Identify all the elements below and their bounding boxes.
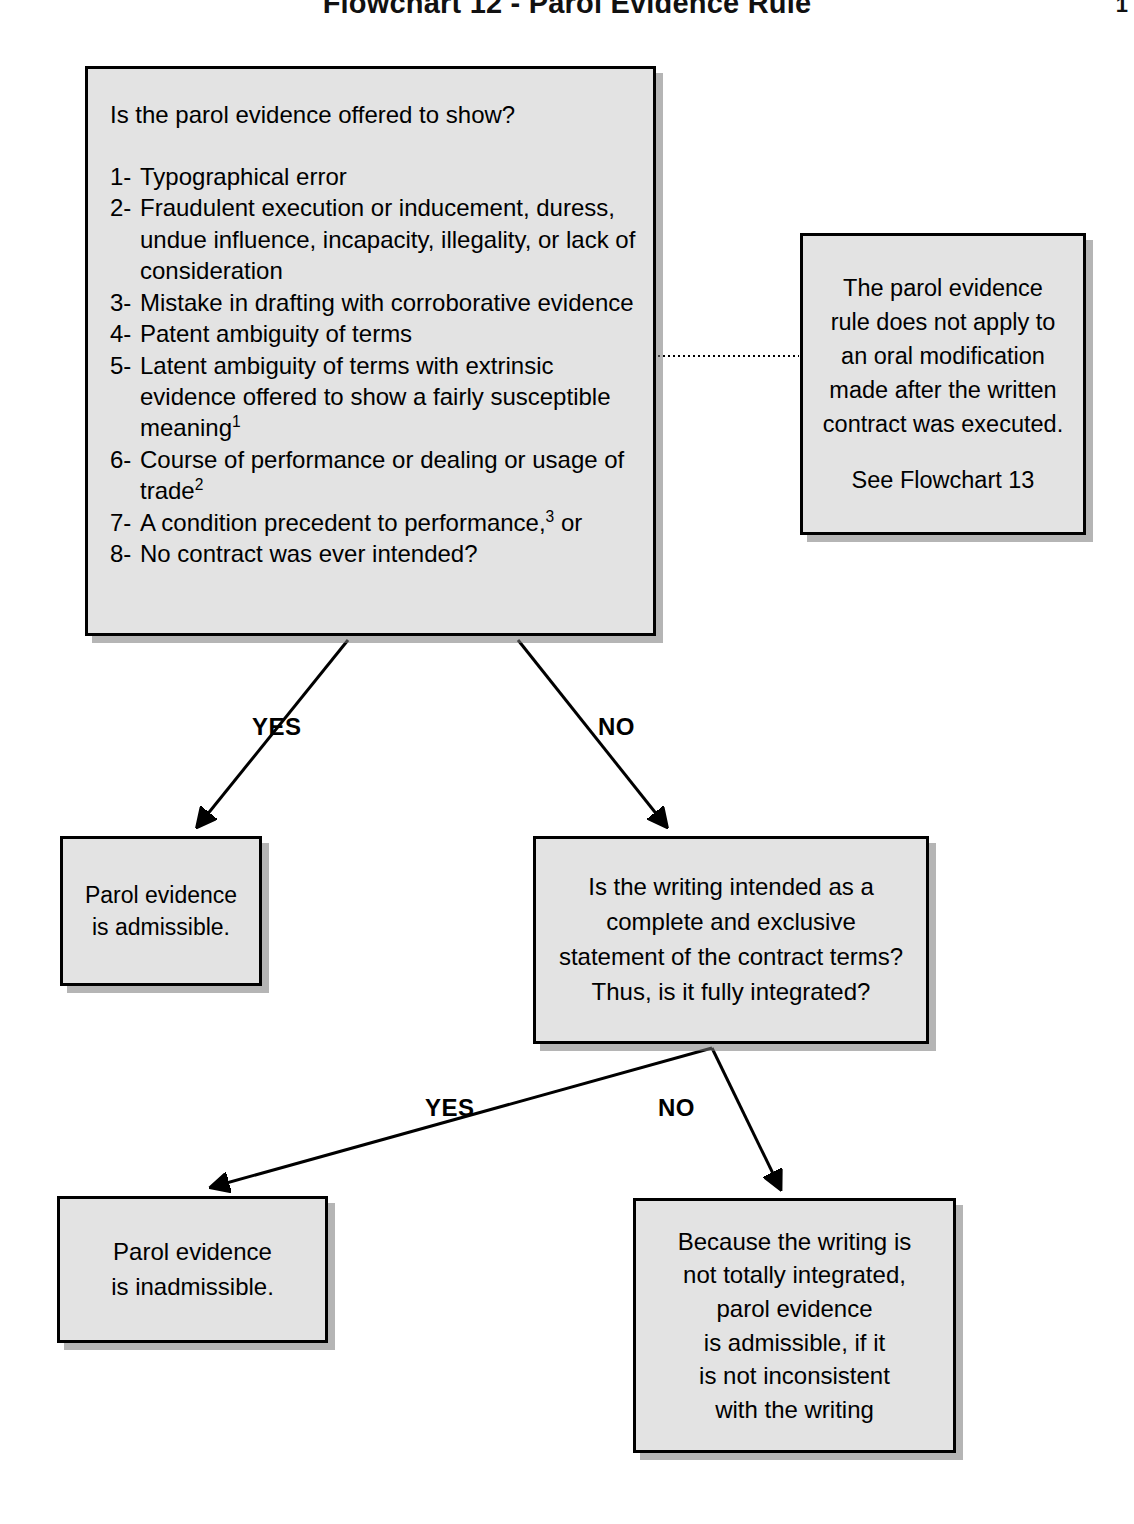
- list-item: 6- Course of performance or dealing or u…: [110, 444, 653, 507]
- footnote-marker: 3: [546, 508, 555, 525]
- list-item: 1- Typographical error: [110, 161, 653, 192]
- list-item-number: 7-: [110, 507, 140, 538]
- outcome-box-parol-evidence-admissible[interactable]: Parol evidence is admissible.: [60, 836, 262, 986]
- list-item-text: Typographical error: [140, 161, 653, 192]
- page-title: Flowchart 12 - Parol Evidence Rule: [0, 0, 1134, 20]
- list-item-text: Fraudulent execution or inducement, dure…: [140, 192, 653, 286]
- list-item: 7- A condition precedent to performance,…: [110, 507, 653, 538]
- outcome-line: is admissible.: [92, 911, 230, 943]
- outcome-line: with the writing: [715, 1393, 874, 1427]
- list-item: 3- Mistake in drafting with corroborativ…: [110, 287, 653, 318]
- list-item-number: 5-: [110, 350, 140, 381]
- outcome-box-not-totally-integrated[interactable]: Because the writing is not totally integ…: [633, 1198, 956, 1453]
- list-item-number: 6-: [110, 444, 140, 475]
- list-item-text: Latent ambiguity of terms with extrinsic…: [140, 352, 611, 442]
- list-item-number: 2-: [110, 192, 140, 223]
- edge-label-yes-second: YES: [425, 1094, 475, 1122]
- outcome-line: Parol evidence: [113, 1235, 272, 1269]
- outcome-line: parol evidence: [716, 1292, 872, 1326]
- list-item: 2- Fraudulent execution or inducement, d…: [110, 192, 653, 286]
- list-item-text: A condition precedent to performance,: [140, 509, 546, 536]
- question-line: complete and exclusive: [606, 905, 855, 940]
- list-item: 8- No contract was ever intended?: [110, 538, 653, 569]
- footnote-marker: 1: [232, 413, 241, 430]
- question-line: Thus, is it fully integrated?: [592, 975, 871, 1010]
- outcome-line: Because the writing is: [678, 1225, 911, 1259]
- list-item-number: 4-: [110, 318, 140, 349]
- edge-label-no-first: NO: [598, 713, 635, 741]
- list-item: 4- Patent ambiguity of terms: [110, 318, 653, 349]
- list-item-number: 3-: [110, 287, 140, 318]
- note-line: rule does not apply to: [831, 305, 1056, 339]
- note-line: The parol evidence: [843, 271, 1043, 305]
- edge-label-yes-first: YES: [252, 713, 302, 741]
- flowchart-page: Flowchart 12 - Parol Evidence Rule 1 Is …: [0, 0, 1134, 1524]
- list-item-number: 8-: [110, 538, 140, 569]
- question-prompt: Is the parol evidence offered to show?: [110, 99, 653, 131]
- outcome-line: not totally integrated,: [683, 1258, 906, 1292]
- list-item: 5- Latent ambiguity of terms with extrin…: [110, 350, 653, 444]
- edge-no-integration: [518, 640, 666, 826]
- list-item-text: No contract was ever intended?: [140, 538, 653, 569]
- list-item-number: 1-: [110, 161, 140, 192]
- outcome-line: Parol evidence: [85, 879, 237, 911]
- list-item-text: Patent ambiguity of terms: [140, 318, 653, 349]
- outcome-line: is admissible, if it: [704, 1326, 885, 1360]
- footnote-marker: 2: [195, 476, 204, 493]
- note-box-oral-modification[interactable]: The parol evidence rule does not apply t…: [800, 233, 1086, 535]
- question-line: statement of the contract terms?: [559, 940, 903, 975]
- question-option-list: 1- Typographical error 2- Fraudulent exe…: [110, 161, 653, 570]
- outcome-line: is inadmissible.: [111, 1270, 274, 1304]
- decision-box-fully-integrated[interactable]: Is the writing intended as a complete an…: [533, 836, 929, 1044]
- edge-label-no-second: NO: [658, 1094, 695, 1122]
- note-line: an oral modification: [841, 339, 1045, 373]
- list-item-text: Mistake in drafting with corroborative e…: [140, 287, 653, 318]
- note-reference-link[interactable]: See Flowchart 13: [852, 463, 1035, 497]
- edge-no-partial: [712, 1048, 780, 1188]
- page-number: 1: [1116, 0, 1128, 18]
- outcome-line: is not inconsistent: [699, 1359, 890, 1393]
- note-line: contract was executed.: [823, 407, 1063, 441]
- question-line: Is the writing intended as a: [588, 870, 874, 905]
- outcome-box-parol-evidence-inadmissible[interactable]: Parol evidence is inadmissible.: [57, 1196, 328, 1343]
- list-item-text: Course of performance or dealing or usag…: [140, 446, 624, 504]
- decision-box-parol-evidence-offered[interactable]: Is the parol evidence offered to show? 1…: [85, 66, 656, 636]
- list-item-tail: or: [554, 509, 582, 536]
- note-line: made after the written: [829, 373, 1056, 407]
